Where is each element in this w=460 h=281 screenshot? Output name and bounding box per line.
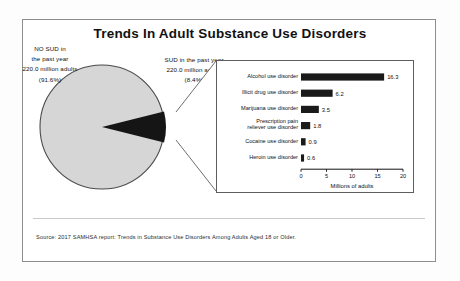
bar-value-label: 1.8 bbox=[313, 123, 321, 129]
bar-chart-panel: Alcohol use disorder16.3Illicit drug use… bbox=[216, 60, 414, 193]
bar-value-label: 3.5 bbox=[322, 107, 330, 113]
bar-category-label: reliever use disorder bbox=[247, 124, 298, 130]
pie-label-no-sud: NO SUD in the past year 220.0 million ad… bbox=[2, 44, 98, 85]
pie-label-no-sud-percent: (91.6%) bbox=[2, 75, 98, 85]
bar bbox=[301, 154, 304, 161]
x-axis-title: Millions of adults bbox=[331, 183, 374, 189]
bar-value-label: 0.9 bbox=[309, 139, 317, 145]
bar-value-label: 0.6 bbox=[307, 155, 315, 161]
bar-chart-svg: Alcohol use disorder16.3Illicit drug use… bbox=[217, 61, 413, 192]
bar-value-label: 16.3 bbox=[387, 74, 398, 80]
bar-category-label: Cocaine use disorder bbox=[245, 138, 298, 144]
pie-label-no-sud-value: 220.0 million adults bbox=[2, 64, 98, 74]
bar bbox=[301, 122, 310, 129]
bar-category-label: Heroin use disorder bbox=[249, 154, 298, 160]
page-title: Trends In Adult Substance Use Disorders bbox=[0, 26, 460, 41]
bar-value-label: 6.2 bbox=[336, 91, 344, 97]
x-axis-tick-label: 5 bbox=[325, 173, 328, 179]
bar bbox=[301, 73, 384, 80]
bar-category-label: Prescription pain bbox=[256, 118, 298, 124]
bar bbox=[301, 106, 319, 113]
bar-category-label: Illicit drug use disorder bbox=[242, 89, 298, 95]
source-note: Source: 2017 SAMHSA report: Trends in Su… bbox=[36, 234, 296, 240]
figure-canvas: Trends In Adult Substance Use Disorders … bbox=[0, 0, 460, 281]
footer-divider bbox=[33, 218, 425, 219]
x-axis-tick-label: 15 bbox=[374, 173, 380, 179]
x-axis-tick-label: 10 bbox=[349, 173, 355, 179]
x-axis-tick-label: 0 bbox=[299, 173, 302, 179]
bar-category-label: Marijuana use disorder bbox=[241, 105, 298, 111]
bar-category-label: Alcohol use disorder bbox=[247, 73, 298, 79]
callout-fill bbox=[176, 61, 216, 191]
bar bbox=[301, 90, 333, 97]
pie-label-no-sud-line2: the past year bbox=[2, 54, 98, 64]
x-axis-tick-label: 20 bbox=[400, 173, 406, 179]
pie-label-no-sud-line1: NO SUD in bbox=[2, 44, 98, 54]
bar bbox=[301, 138, 306, 145]
